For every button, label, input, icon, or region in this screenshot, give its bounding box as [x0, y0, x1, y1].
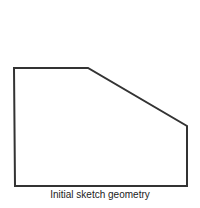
sketch-polygon [14, 68, 187, 186]
sketch-figure [0, 0, 200, 208]
figure-caption: Initial sketch geometry [0, 189, 200, 200]
